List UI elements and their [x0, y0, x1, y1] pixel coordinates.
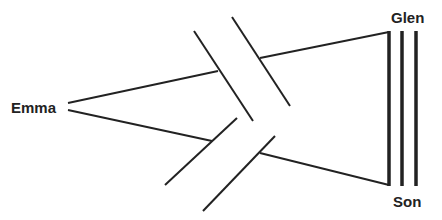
edge-segment-right	[260, 32, 389, 58]
cutoff-slash-2	[232, 17, 290, 106]
node-label-glen: Glen	[391, 10, 424, 25]
node-label-emma: Emma	[11, 100, 56, 115]
cutoff-slash-2	[203, 136, 275, 211]
edge-glen-son-fused	[389, 31, 416, 186]
edge-emma-son	[68, 110, 389, 211]
cutoff-slash-1	[194, 31, 253, 121]
cutoff-slash-1	[165, 118, 237, 185]
edge-emma-glen	[68, 17, 389, 121]
edge-segment-left	[68, 71, 218, 103]
edge-segment-right	[260, 153, 389, 185]
edge-segment-left	[68, 110, 212, 141]
relationship-diagram-canvas	[0, 0, 442, 220]
node-label-son: Son	[393, 194, 421, 209]
